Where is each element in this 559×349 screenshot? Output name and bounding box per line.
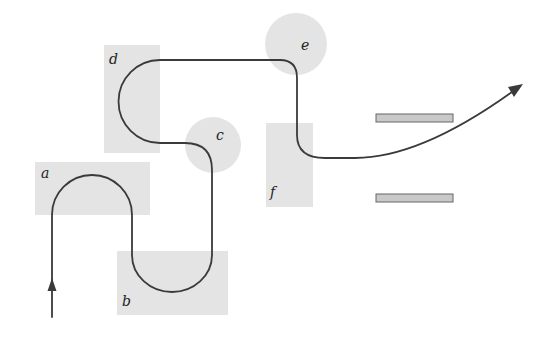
bar-bottom (376, 194, 453, 202)
region-e (265, 13, 327, 75)
label-b: b (122, 293, 131, 309)
end-arrow-icon (508, 84, 523, 97)
region-c (185, 117, 241, 173)
label-e: e (301, 37, 309, 53)
path-diagram: a b c d e f (0, 0, 559, 349)
start-arrow-icon (48, 278, 57, 291)
label-d: d (109, 51, 118, 67)
bar-top (376, 114, 453, 122)
label-a: a (41, 165, 49, 181)
label-c: c (216, 127, 224, 143)
